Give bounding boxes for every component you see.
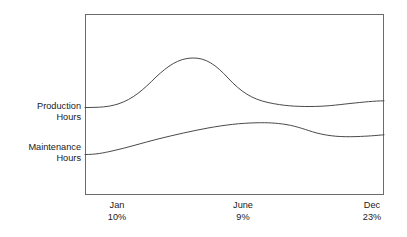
xtick-label-jan: Jan [110,200,125,210]
series-label-maintenance-line2: Hours [56,153,81,163]
line-chart: Production Hours Maintenance Hours Jan 1… [0,0,407,237]
xtick-sublabel-june: 9% [236,212,249,222]
xtick-label-dec: Dec [364,200,381,210]
chart-canvas: Production Hours Maintenance Hours Jan 1… [0,0,407,237]
series-line-production-hours [85,58,384,108]
series-line-maintenance-hours [85,123,384,155]
series-label-maintenance-line1: Maintenance [28,142,81,152]
xtick-sublabel-jan: 10% [108,212,126,222]
xtick-sublabel-dec: 23% [363,212,381,222]
xtick-label-june: June [233,200,253,210]
series-label-production-line1: Production [37,101,81,111]
series-label-production-line2: Hours [56,112,81,122]
